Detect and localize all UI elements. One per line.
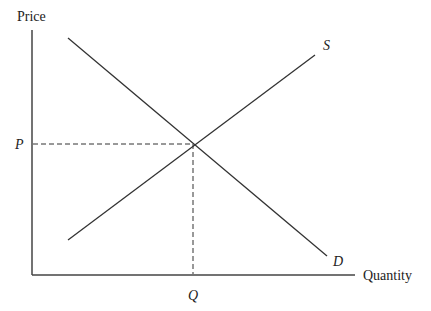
demand-curve: [68, 38, 327, 256]
x-axis-label: Quantity: [363, 268, 412, 283]
demand-label: D: [332, 254, 343, 269]
quantity-label: Q: [188, 288, 198, 303]
supply-curve: [68, 55, 315, 240]
price-label: P: [14, 137, 24, 152]
supply-label: S: [323, 38, 330, 53]
y-axis-label: Price: [17, 9, 46, 24]
supply-demand-diagram: Price Quantity S D P Q: [0, 0, 431, 311]
